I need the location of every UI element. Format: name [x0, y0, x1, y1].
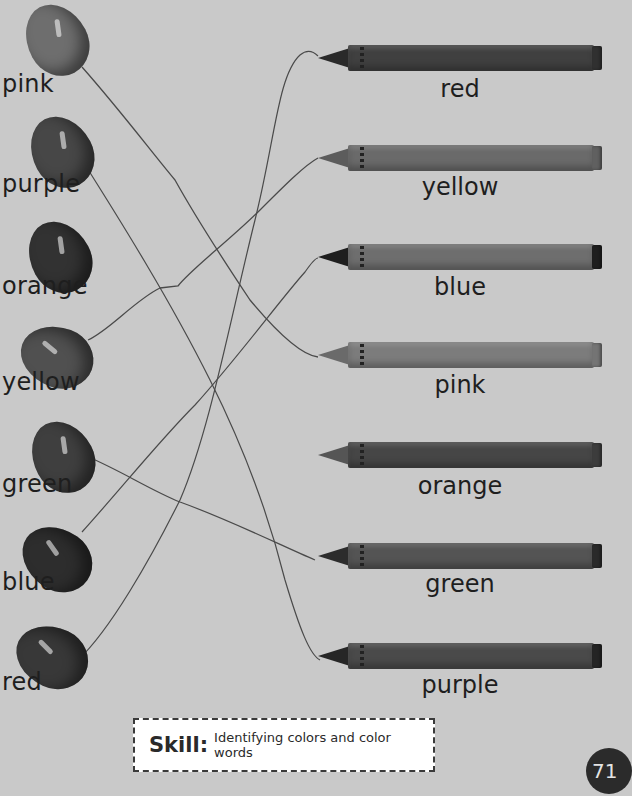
- crayon-body: [348, 342, 594, 368]
- jellybean-label-green: green: [2, 470, 72, 498]
- crayon-label-blue: blue: [360, 273, 560, 301]
- page-number: 71: [592, 759, 617, 783]
- crayon-body: [348, 442, 594, 468]
- crayon-label-green: green: [360, 570, 560, 598]
- crayon-green[interactable]: [318, 543, 602, 569]
- crayon-label-yellow: yellow: [360, 173, 560, 201]
- crayon-blue[interactable]: [318, 244, 602, 270]
- wrapper-zigzag: [360, 444, 364, 466]
- page-number-badge: 71: [586, 748, 632, 794]
- skill-description: Identifying colors and color words: [214, 730, 433, 760]
- crayon-pink[interactable]: [318, 342, 602, 368]
- crayon-label-purple: purple: [360, 671, 560, 699]
- crayon-tip: [318, 345, 350, 365]
- crayon-yellow[interactable]: [318, 145, 602, 171]
- crayon-body: [348, 244, 594, 270]
- crayon-end: [592, 644, 602, 668]
- crayon-end: [592, 46, 602, 70]
- line-yellow: [88, 158, 318, 340]
- crayon-tip: [318, 247, 350, 267]
- wrapper-zigzag: [360, 545, 364, 567]
- jellybean-label-purple: purple: [2, 170, 80, 198]
- shine-highlight: [45, 539, 59, 557]
- crayon-tip: [318, 48, 350, 68]
- shine-highlight: [54, 19, 61, 38]
- shine-highlight: [60, 436, 67, 455]
- crayon-label-orange: orange: [360, 472, 560, 500]
- crayon-end: [592, 245, 602, 269]
- crayon-tip: [318, 445, 350, 465]
- line-pink: [82, 67, 318, 357]
- wrapper-zigzag: [360, 246, 364, 268]
- jellybean-label-orange: orange: [2, 272, 88, 300]
- crayon-tip: [318, 148, 350, 168]
- wrapper-zigzag: [360, 147, 364, 169]
- line-green: [86, 456, 315, 560]
- wrapper-zigzag: [360, 645, 364, 667]
- shine-highlight: [57, 236, 64, 255]
- crayon-end: [592, 343, 602, 367]
- crayon-body: [348, 145, 594, 171]
- crayon-end: [592, 443, 602, 467]
- shine-highlight: [38, 639, 54, 655]
- jellybean-label-blue: blue: [2, 568, 55, 596]
- crayon-label-pink: pink: [360, 371, 560, 399]
- jellybean-label-yellow: yellow: [2, 368, 80, 396]
- shine-highlight: [41, 340, 58, 355]
- line-purple: [82, 160, 320, 660]
- crayon-tip: [318, 546, 350, 566]
- crayon-purple[interactable]: [318, 643, 602, 669]
- crayon-body: [348, 543, 594, 569]
- line-blue: [82, 258, 318, 532]
- crayon-tip: [318, 646, 350, 666]
- crayon-body: [348, 643, 594, 669]
- crayon-end: [592, 544, 602, 568]
- crayon-label-red: red: [360, 75, 560, 103]
- jellybean-label-pink: pink: [2, 70, 54, 98]
- skill-title: Skill:: [149, 733, 208, 757]
- wrapper-zigzag: [360, 344, 364, 366]
- crayon-red[interactable]: [318, 45, 602, 71]
- wrapper-zigzag: [360, 47, 364, 69]
- crayon-orange[interactable]: [318, 442, 602, 468]
- crayon-body: [348, 45, 594, 71]
- jellybean-label-red: red: [2, 668, 42, 696]
- skill-box: Skill: Identifying colors and color word…: [133, 718, 435, 772]
- crayon-end: [592, 146, 602, 170]
- shine-highlight: [59, 131, 66, 150]
